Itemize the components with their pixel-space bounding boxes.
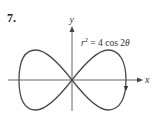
- eq-rhs: = 4 cos 2: [88, 38, 125, 48]
- x-axis-label: x: [144, 74, 150, 85]
- equation-label: r2 = 4 cos 2θ: [81, 36, 130, 48]
- direction-arrow-icon: [124, 86, 128, 91]
- y-axis-label: y: [69, 14, 75, 25]
- x-axis-arrow-icon: [137, 78, 143, 83]
- eq-theta: θ: [125, 38, 130, 48]
- lemniscate-plot: x y r2 = 4 cos 2θ: [0, 0, 153, 136]
- y-axis-arrow-icon: [70, 26, 75, 32]
